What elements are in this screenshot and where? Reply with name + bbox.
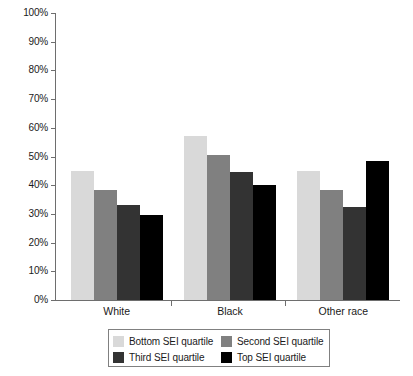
legend-label: Third SEI quartile (129, 352, 204, 363)
y-tick-mark (51, 243, 55, 244)
legend-item: Third SEI quartile (113, 352, 221, 363)
y-tick-mark (51, 300, 55, 301)
legend-item: Top SEI quartile (221, 352, 331, 363)
bar (297, 171, 320, 300)
x-tick-label: White (60, 305, 173, 318)
legend-swatch-icon (221, 336, 232, 347)
y-tick-mark (51, 42, 55, 43)
legend-swatch-icon (221, 352, 232, 363)
bar (207, 155, 230, 300)
plot-area: 0%10%20%30%40%50%60%70%80%90%100% WhiteB… (0, 0, 413, 320)
y-tick-mark (51, 128, 55, 129)
y-tick-mark (51, 185, 55, 186)
y-tick-mark (51, 70, 55, 71)
bar (184, 136, 207, 300)
bar-chart: 0%10%20%30%40%50%60%70%80%90%100% WhiteB… (0, 0, 413, 376)
bar (253, 185, 276, 300)
x-group-separator-mark (171, 301, 172, 306)
x-group-separator-mark (285, 301, 286, 306)
bar (117, 205, 140, 300)
bar (320, 190, 343, 300)
y-tick-mark (51, 99, 55, 100)
y-tick-mark (51, 13, 55, 14)
bar (366, 161, 389, 300)
legend-item: Second SEI quartile (221, 336, 331, 347)
bar (71, 171, 94, 300)
y-tick-mark (51, 157, 55, 158)
legend-item: Bottom SEI quartile (113, 336, 221, 347)
y-tick-mark (51, 214, 55, 215)
y-tick-mark (51, 271, 55, 272)
legend-swatch-icon (113, 336, 124, 347)
bar (230, 172, 253, 300)
legend-swatch-icon (113, 352, 124, 363)
legend-grid: Bottom SEI quartileSecond SEI quartileTh… (113, 333, 325, 365)
legend-label: Second SEI quartile (237, 336, 324, 347)
x-tick-label: Other race (287, 305, 400, 318)
chart-legend: Bottom SEI quartileSecond SEI quartileTh… (108, 329, 330, 367)
x-tick-label: Black (173, 305, 286, 318)
bar (140, 215, 163, 300)
legend-label: Top SEI quartile (237, 352, 306, 363)
x-axis-labels: WhiteBlackOther race (0, 305, 413, 321)
legend-label: Bottom SEI quartile (129, 336, 213, 347)
bars-layer (0, 0, 413, 320)
bar (94, 190, 117, 300)
bar (343, 207, 366, 300)
